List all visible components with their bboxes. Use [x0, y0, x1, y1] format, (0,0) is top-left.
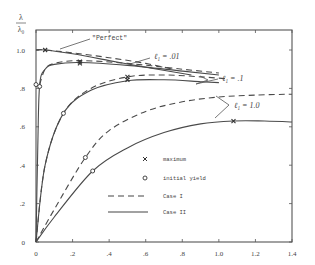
curve-l1-1-case-i [36, 75, 228, 242]
initial-yield-marker-icon [83, 156, 87, 160]
y-tick-label: .4 [20, 162, 26, 170]
chart-svg: 0.2.4.6.81.01.21.40.2.4.6.81.0λλ₀"Perfec… [0, 0, 315, 265]
annotation-leader-perfect [60, 39, 90, 49]
legend-initial-yield-icon [143, 176, 147, 180]
chart-container: 0.2.4.6.81.01.21.40.2.4.6.81.0λλ₀"Perfec… [0, 0, 315, 265]
x-tick-label: 1.4 [288, 250, 297, 258]
curve-l1-01-case-ii [36, 62, 219, 242]
curve-l1-1-case-ii [36, 80, 219, 242]
y-tick-label: .6 [20, 123, 26, 131]
legend-label-maximum: maximum [163, 156, 187, 163]
initial-yield-marker-icon [38, 84, 42, 88]
y-axis-label-numerator: λ [19, 13, 23, 22]
curve-l1-1-0-case-i [36, 94, 292, 242]
legend-label-case-ii: Case II [163, 209, 186, 216]
legend-label-case-i: Case I [163, 193, 183, 200]
y-tick-label: 1.0 [16, 47, 25, 55]
x-tick-label: 1.0 [214, 250, 223, 258]
initial-yield-marker-icon [61, 111, 65, 115]
annotation-l1-10: ℓ₁ = 1.0 [234, 101, 260, 110]
x-tick-label: 0 [34, 250, 38, 258]
legend-maximum-icon [143, 157, 147, 161]
y-tick-label: .8 [20, 85, 26, 93]
x-tick-label: .6 [143, 250, 149, 258]
initial-yield-marker-icon [91, 169, 95, 173]
y-tick-label: .2 [20, 200, 26, 208]
legend-label-initial-yield: initial yield [163, 175, 206, 182]
x-tick-label: .8 [180, 250, 186, 258]
annotation-leader-l1-10 [215, 96, 229, 118]
annotation-perfect: "Perfect" [92, 35, 127, 42]
annotation-l1-01: ℓ₁ = .1 [222, 74, 244, 83]
x-tick-label: .4 [107, 250, 113, 258]
x-tick-label: .2 [70, 250, 76, 258]
annotation-l1-001: ℓ₁ = .01 [154, 52, 180, 61]
y-axis-label-denominator: λ₀ [18, 25, 25, 34]
y-tick-label: 0 [22, 239, 26, 247]
x-tick-label: 1.2 [251, 250, 260, 258]
